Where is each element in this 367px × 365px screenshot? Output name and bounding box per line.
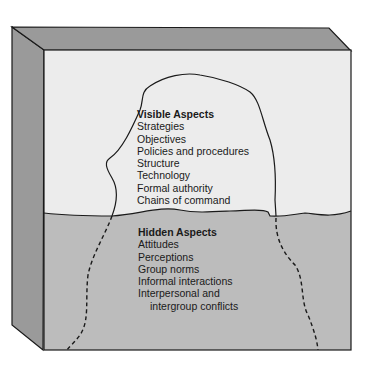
hidden-item-continuation: intergroup conflicts [138, 300, 238, 312]
visible-item: Policies and procedures [137, 145, 249, 157]
hidden-item: Group norms [138, 263, 238, 275]
visible-item: Structure [137, 157, 249, 169]
hidden-item: Perceptions [138, 251, 238, 263]
hidden-item: Interpersonal and [138, 287, 238, 299]
box-left-face [12, 27, 44, 350]
visible-aspects-list: Visible Aspects Strategies Objectives Po… [137, 108, 249, 206]
hidden-item: Attitudes [138, 238, 238, 250]
hidden-aspects-title: Hidden Aspects [138, 226, 238, 238]
visible-item: Strategies [137, 120, 249, 132]
visible-aspects-title: Visible Aspects [137, 108, 249, 120]
box-top-face [12, 27, 351, 51]
visible-item: Formal authority [137, 182, 249, 194]
visible-item: Objectives [137, 133, 249, 145]
hidden-aspects-list: Hidden Aspects Attitudes Perceptions Gro… [138, 226, 238, 312]
visible-item: Chains of command [137, 194, 249, 206]
visible-item: Technology [137, 169, 249, 181]
hidden-item: Informal interactions [138, 275, 238, 287]
